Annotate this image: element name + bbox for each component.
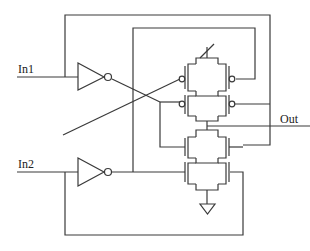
label-out: Out xyxy=(280,112,299,126)
wire-inv1-out xyxy=(112,79,185,147)
inverter-1 xyxy=(78,63,112,90)
pmos-network xyxy=(179,58,270,130)
vdd-symbol xyxy=(200,44,214,58)
label-in2: In2 xyxy=(18,157,34,171)
inverter-2 xyxy=(78,158,112,186)
nmos-network xyxy=(185,130,243,204)
ground-symbol xyxy=(200,204,215,214)
label-in1: In1 xyxy=(18,62,34,76)
circuit-diagram: In1 In2 Out xyxy=(0,0,310,251)
